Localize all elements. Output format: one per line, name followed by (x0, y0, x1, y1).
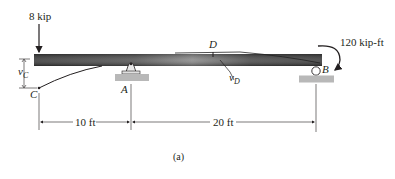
dimension-label-20ft: 20 ft (213, 117, 233, 128)
point-c-label: C (30, 89, 37, 100)
moment-label: 120 kip-ft (340, 37, 384, 48)
vd-sub: D (234, 77, 240, 86)
point-a-label: A (121, 84, 128, 95)
point-load-label: 8 kip (29, 11, 51, 22)
vc-sub: C (23, 71, 28, 80)
figure-caption: (a) (173, 152, 184, 162)
point-c-dot (38, 87, 41, 90)
point-b-label: B (322, 64, 329, 75)
point-d-label: D (209, 39, 217, 50)
vc-label: vC (18, 66, 28, 77)
beam (34, 52, 322, 66)
beam-diagram (0, 0, 395, 179)
elastic-curve-overhang (39, 66, 102, 88)
vd-label: vD (229, 72, 240, 83)
dimension-label-10ft: 10 ft (75, 117, 95, 128)
